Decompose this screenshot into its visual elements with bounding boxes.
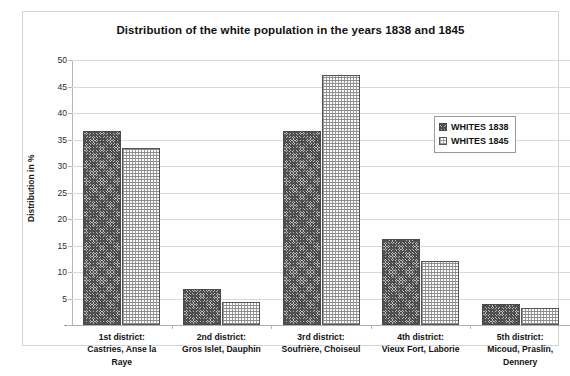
y-axis-tick-label: 45 [37,82,67,91]
y-axis-tick-label: 5 [37,294,67,303]
bar-1838-cat5[interactable] [482,304,520,325]
chart-title: Distribution of the white population in … [23,24,558,36]
legend-item[interactable]: WHITES 1838 [439,120,509,134]
chart-legend: WHITES 1838 WHITES 1845 [434,116,516,153]
y-axis-tick-label: 40 [37,109,67,118]
x-axis-category-labels: 1st district:Castries, Anse laRaye2nd di… [72,331,570,376]
bar-1845-cat3[interactable] [322,75,360,325]
legend-item[interactable]: WHITES 1845 [439,134,509,148]
category-separator [470,325,471,329]
x-axis-category-label: 1st district:Castries, Anse laRaye [72,331,172,368]
dotted-swatch-icon [439,137,447,145]
x-axis-category-label: 5th district:Micoud, Praslin,Dennery [470,331,570,368]
y-axis-tick-labels: -5101520253035404550 [37,12,67,345]
category-separator [172,325,173,329]
x-axis-category-label: 2nd district:Gros Islet, Dauphin [172,331,272,356]
x-axis-category-label: 3rd district:Soufrière, Choiseul [271,331,371,356]
y-axis-tickmark [68,325,72,326]
category-separator [371,325,372,329]
plot-area [72,60,570,325]
bar-1845-cat2[interactable] [222,302,260,325]
bar-1838-cat1[interactable] [83,131,121,325]
hatched-swatch-icon [439,123,447,131]
y-axis-tick-label: 35 [37,135,67,144]
bar-1838-cat2[interactable] [183,289,221,325]
category-separator [271,325,272,329]
y-axis-tick-label: 25 [37,188,67,197]
bar-series-group [72,60,570,325]
legend-item-label: WHITES 1845 [451,136,509,146]
gridline [72,325,570,326]
bar-1845-cat4[interactable] [421,261,459,325]
y-axis-tick-label: - [37,321,67,330]
x-axis-category-label: 4th district:Vieux Fort, Laborie [371,331,471,356]
y-axis-tick-label: 30 [37,162,67,171]
bar-1845-cat5[interactable] [521,308,559,325]
y-axis-tick-label: 10 [37,268,67,277]
legend-item-label: WHITES 1838 [451,122,509,132]
y-axis-title: Distribution in % [24,128,38,248]
chart-container: Distribution of the white population in … [22,11,559,346]
bar-1838-cat4[interactable] [382,239,420,325]
bar-1838-cat3[interactable] [283,131,321,325]
bar-1845-cat1[interactable] [122,148,160,325]
y-axis-tick-label: 50 [37,56,67,65]
y-axis-tick-label: 20 [37,215,67,224]
y-axis-tick-label: 15 [37,241,67,250]
